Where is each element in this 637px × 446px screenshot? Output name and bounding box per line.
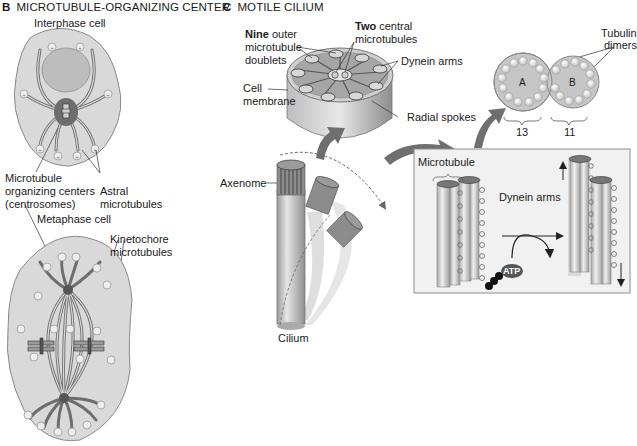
mtoc-label: Microtubule organizing centers (centroso…: [5, 172, 95, 211]
tubulin-dimers-label: Tubulin dimers: [601, 27, 637, 51]
astral-line1: Astral: [100, 185, 162, 198]
metaphase-cell-label: Metaphase cell: [37, 213, 111, 226]
centrosome-bottom: [59, 393, 69, 403]
svg-text:+: +: [78, 45, 82, 51]
tubule-a-label: A: [519, 76, 526, 89]
mtoc-label-line2: organizing centers: [5, 185, 95, 198]
nine-rest: outer: [269, 28, 297, 40]
nine-line2: microtubule: [245, 41, 302, 54]
tubulin-line1: Tubulin: [601, 27, 637, 39]
nine-line3: doublets: [245, 54, 302, 67]
dynein-arms-box-label: Dynein arms: [499, 191, 561, 204]
two-central-microtubules-label: Two central microtubules: [355, 20, 417, 46]
cilium: [277, 152, 385, 330]
axenome-label: Axenome: [220, 177, 266, 190]
dynein-mechanism-box: [414, 149, 630, 293]
kinetochore-line2: microtubules: [110, 246, 172, 259]
mtoc-label-line1: Microtubule: [5, 172, 95, 185]
svg-text:+: +: [106, 92, 110, 98]
svg-text:+: +: [93, 147, 97, 153]
interphase-cell-label: Interphase cell: [34, 17, 106, 30]
protofilament-count-a: 13: [516, 126, 528, 139]
axoneme-cross-section: [287, 48, 393, 138]
astral-microtubules-label: Astral microtubules: [100, 185, 162, 211]
svg-text:+: +: [50, 45, 54, 51]
cilium-label: Cilium: [278, 332, 309, 345]
svg-text:+: +: [38, 147, 42, 153]
atp-label: ATP: [503, 265, 520, 278]
svg-text:+: +: [75, 154, 79, 160]
kinetochore-microtubules-label: Kinetochore microtubules: [110, 233, 172, 259]
radial-spokes-label: Radial spokes: [407, 111, 476, 124]
two-rest: central: [376, 20, 412, 32]
mtoc-label-line3: (centrosomes): [5, 198, 95, 211]
cell-membrane-line2: membrane: [243, 95, 296, 108]
svg-text:+: +: [22, 92, 26, 98]
cell-membrane-line1: Cell: [243, 82, 296, 95]
nine-bold: Nine: [245, 28, 269, 40]
svg-text:+: +: [56, 154, 60, 160]
cell-membrane-label: Cell membrane: [243, 82, 296, 108]
kinetochore-line1: Kinetochore: [110, 233, 172, 246]
astral-line2: microtubules: [100, 198, 162, 211]
centrosome-top: [63, 285, 73, 295]
metaphase-cell: [7, 236, 132, 440]
dynein-arms-top-label: Dynein arms: [401, 55, 463, 68]
tubule-b-label: B: [569, 76, 576, 89]
nucleus: [42, 48, 90, 92]
tubulin-line2: dimers: [601, 39, 637, 51]
nine-outer-doublets-label: Nine outer microtubule doublets: [245, 28, 302, 67]
protofilament-count-b: 11: [564, 126, 575, 139]
interphase-cell: ++ ++ ++ ++: [14, 28, 121, 166]
doublet-cross-section: [494, 53, 599, 125]
microtubule-label: Microtubule: [418, 156, 475, 169]
two-line2: microtubules: [355, 33, 417, 46]
two-bold: Two: [355, 20, 376, 32]
